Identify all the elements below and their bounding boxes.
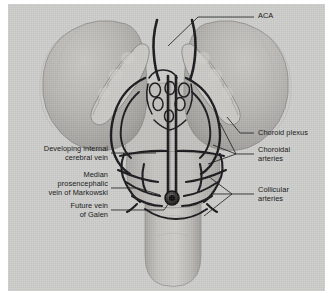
label-aca: ACA xyxy=(258,11,273,20)
label-choroidal-arteries-line2: arteries xyxy=(258,154,283,163)
label-internal-cerebral-vein-line1: Developing internal xyxy=(8,144,108,153)
label-markowski-line3: vein of Markowski xyxy=(8,188,108,197)
label-markowski-line2: prosencephalic xyxy=(8,179,108,188)
label-vein-of-galen-line2: of Galen xyxy=(8,210,108,219)
label-collicular-arteries-line2: arteries xyxy=(258,194,283,203)
illustration-panel: ACA Choroid plexus Choroidal arteries Co… xyxy=(8,4,325,291)
label-choroidal-arteries-line1: Choroidal xyxy=(258,145,290,154)
label-vein-of-galen-line1: Future vein xyxy=(8,201,108,210)
label-collicular-arteries-line1: Collicular xyxy=(258,185,289,194)
label-internal-cerebral-vein-line2: cerebral vein xyxy=(8,153,108,162)
anatomical-figure: ACA Choroid plexus Choroidal arteries Co… xyxy=(0,0,332,295)
label-choroid-plexus: Choroid plexus xyxy=(258,128,308,137)
label-markowski-line1: Median xyxy=(8,170,108,179)
